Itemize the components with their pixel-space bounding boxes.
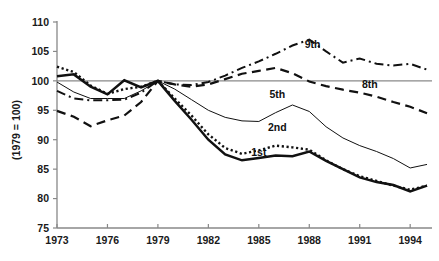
x-axis-tick-label: 1985 <box>247 234 271 246</box>
chart-series-group <box>57 40 427 192</box>
series-line-5th <box>57 81 427 168</box>
x-axis-tick-labels: 19731976197919821985198819911994 <box>45 234 422 246</box>
series-label-8th: 8th <box>362 78 378 90</box>
line-chart: 7580859095100105110 19731976197919821985… <box>0 0 439 261</box>
x-axis-tick-label: 1991 <box>348 234 372 246</box>
y-axis-tick-label: 100 <box>31 75 49 87</box>
y-axis-title: (1979 = 100) <box>10 100 22 160</box>
y-axis-tick-label: 105 <box>31 45 49 57</box>
series-label-5th: 5th <box>269 88 285 100</box>
series-label-1st: 1st <box>251 146 267 158</box>
x-axis-tick-label: 1976 <box>96 234 120 246</box>
y-axis-tick-label: 95 <box>37 104 49 116</box>
series-line-8th <box>57 68 427 126</box>
x-axis-tick-label: 1979 <box>146 234 170 246</box>
y-axis-tick-label: 110 <box>32 16 49 28</box>
y-axis-tick-label: 80 <box>37 192 49 204</box>
y-axis-tick-label: 90 <box>37 134 49 146</box>
series-label-2nd: 2nd <box>268 121 287 133</box>
x-axis-tick-label: 1994 <box>399 234 423 246</box>
x-axis-tick-label: 1973 <box>45 234 69 246</box>
y-axis-tick-label: 75 <box>37 222 49 234</box>
chart-axes <box>53 21 432 228</box>
series-inline-labels: 9th8th5th2nd1st <box>251 38 377 158</box>
x-axis-tick-label: 1982 <box>197 234 221 246</box>
y-axis-tick-label: 85 <box>37 163 49 175</box>
chart-container: 7580859095100105110 19731976197919821985… <box>0 0 439 261</box>
x-axis-tick-label: 1988 <box>298 234 322 246</box>
series-label-9th: 9th <box>305 38 321 50</box>
y-axis-title-text: (1979 = 100) <box>10 100 22 160</box>
y-axis-tick-labels: 7580859095100105110 <box>31 16 49 234</box>
